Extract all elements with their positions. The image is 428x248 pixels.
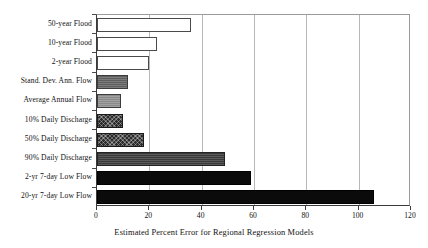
y-axis-tick xyxy=(92,168,96,169)
x-axis-tick xyxy=(410,206,411,210)
x-axis-ticklabel: 120 xyxy=(404,211,415,221)
bar xyxy=(97,37,157,51)
bar xyxy=(97,190,374,204)
x-axis-tick xyxy=(201,206,202,210)
x-axis-tick xyxy=(96,206,97,210)
x-axis-ticklabel: 100 xyxy=(352,211,363,221)
x-axis-tick xyxy=(358,206,359,210)
y-axis-tick xyxy=(92,14,96,15)
bar xyxy=(97,56,149,70)
x-axis-ticklabel: 80 xyxy=(302,211,310,221)
x-axis-tick xyxy=(253,206,254,210)
bar xyxy=(97,171,251,185)
x-axis-tick xyxy=(305,206,306,210)
y-axis-tick xyxy=(92,72,96,73)
x-axis-ticklabel: 40 xyxy=(197,211,205,221)
y-axis-tick xyxy=(92,52,96,53)
x-axis-ticklabel: 60 xyxy=(249,211,257,221)
y-axis-tick xyxy=(92,129,96,130)
y-axis-tick xyxy=(92,148,96,149)
y-axis-tick xyxy=(92,33,96,34)
bar xyxy=(97,94,121,108)
x-axis-ticklabel: 20 xyxy=(145,211,153,221)
y-axis-ticks xyxy=(0,14,96,206)
plot-area xyxy=(96,14,410,206)
bar-rows xyxy=(97,15,409,205)
bar xyxy=(97,152,225,166)
bar xyxy=(97,18,191,32)
y-axis-tick xyxy=(92,110,96,111)
bar xyxy=(97,75,128,89)
bar xyxy=(97,133,144,147)
bar xyxy=(97,114,123,128)
y-axis-tick xyxy=(92,187,96,188)
bar-chart: 50-year Flood10-year Flood2-year FloodSt… xyxy=(0,0,428,248)
x-axis-title: Estimated Percent Error for Regional Reg… xyxy=(0,227,428,239)
x-axis-ticklabels: 020406080100120 xyxy=(0,211,428,225)
x-axis-tick xyxy=(148,206,149,210)
y-axis-tick xyxy=(92,91,96,92)
x-axis-ticklabel: 0 xyxy=(94,211,98,221)
